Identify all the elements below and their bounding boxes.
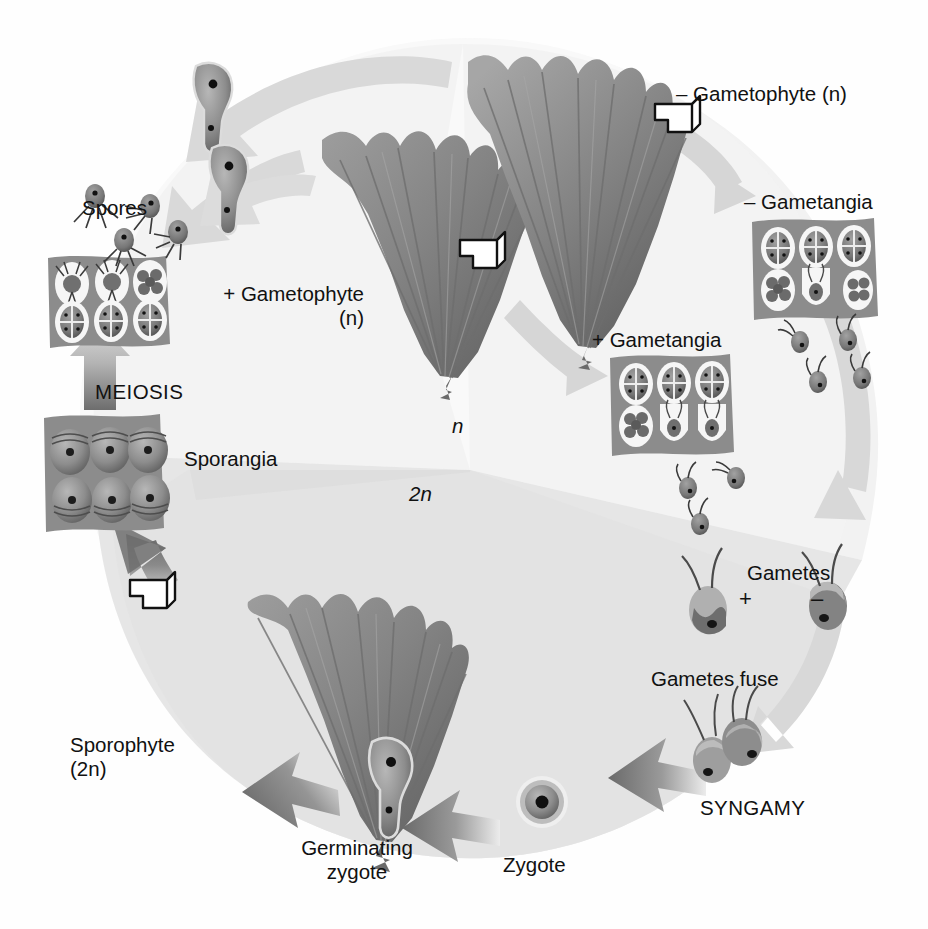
label-gametes-fuse: Gametes fuse xyxy=(651,667,779,691)
label-sporangia: Sporangia xyxy=(184,447,277,471)
gametangium-packed-cell xyxy=(843,270,873,310)
label-meiosis: MEIOSIS xyxy=(95,380,183,404)
label-gametes: Gametes xyxy=(747,561,830,585)
zygote-cell xyxy=(516,776,568,828)
gametangium-packed-cell xyxy=(619,405,653,447)
gametangium-cell xyxy=(837,225,871,267)
spore-release-block xyxy=(48,256,170,348)
gametangium-releasing-cell xyxy=(660,400,688,441)
gametangium-packed-cell xyxy=(761,269,795,311)
label-haploid-marker: n xyxy=(452,414,463,438)
diagram-canvas xyxy=(0,0,928,929)
sporangium-cell xyxy=(130,475,170,521)
sporangium-cell xyxy=(90,427,130,473)
sporangium-with-spores xyxy=(133,260,167,304)
plus-gametangia-block xyxy=(610,354,734,456)
releasing-sporangium xyxy=(95,260,129,304)
minus-gametangia-block xyxy=(752,218,878,320)
gametangium-cell xyxy=(619,363,653,405)
sporangium-cell xyxy=(92,477,132,523)
label-syngamy: SYNGAMY xyxy=(700,796,805,820)
gametangium-cell xyxy=(799,226,833,268)
gametangium-cell xyxy=(55,301,89,343)
label-gamete-minus: – xyxy=(811,586,823,612)
gametangium-releasing-cell xyxy=(698,400,726,441)
label-diploid-marker: 2n xyxy=(409,482,432,506)
label-gamete-plus: + xyxy=(739,586,752,612)
sporangia-block xyxy=(44,414,170,532)
sporangium-cell xyxy=(50,429,90,475)
label-minus-gametophyte: – Gametophyte (n) xyxy=(676,82,847,106)
label-plus-gametangia: + Gametangia xyxy=(592,328,721,352)
label-spores: Spores xyxy=(82,196,147,220)
sporangium-cell xyxy=(128,427,168,473)
label-zygote: Zygote xyxy=(503,853,566,877)
gametangium-cell xyxy=(761,227,795,269)
sporangium-cell xyxy=(52,477,92,523)
label-sporophyte: Sporophyte(2n) xyxy=(70,733,175,781)
label-germinating-zygote: Germinatingzygote xyxy=(272,836,442,884)
label-minus-gametangia: – Gametangia xyxy=(744,190,873,214)
releasing-sporangium xyxy=(55,262,89,306)
gametangium-cell xyxy=(657,362,691,404)
gametangium-releasing-cell xyxy=(802,264,830,305)
gametangium-cell xyxy=(94,300,128,342)
gametangium-cell xyxy=(133,299,167,341)
life-cycle-diagram: – Gametophyte (n) – Gametangia + Gametan… xyxy=(0,0,928,929)
label-plus-gametophyte: + Gametophyte(n) xyxy=(168,282,364,330)
gametangium-cell xyxy=(695,361,729,403)
